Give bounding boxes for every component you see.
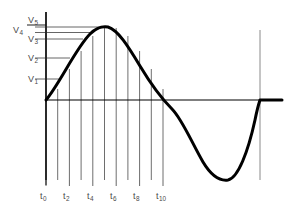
time-label-t6-sub: 6 xyxy=(113,195,117,202)
time-label-t2-sub: 2 xyxy=(66,195,70,202)
voltage-label-v1-sub: 1 xyxy=(34,78,38,85)
time-label-t8: t8 xyxy=(133,192,139,201)
time-label-t4: t4 xyxy=(87,192,93,201)
time-label-t0-sub: 0 xyxy=(43,195,47,202)
voltage-label-v4: V4 xyxy=(13,26,23,35)
voltage-label-v3: V3 xyxy=(28,35,38,44)
figure-canvas xyxy=(0,0,298,214)
voltage-label-v5: V5 xyxy=(28,16,38,25)
voltage-label-v1: V1 xyxy=(28,75,38,84)
voltage-label-v2: V2 xyxy=(28,54,38,63)
tick-mark-group xyxy=(46,180,163,186)
sampling-line-group xyxy=(46,12,163,180)
voltage-label-v2-sub: 2 xyxy=(34,57,38,64)
voltage-label-v5-sub: 5 xyxy=(34,19,38,26)
voltage-label-v4-sub: 4 xyxy=(19,29,23,36)
time-label-t6: t6 xyxy=(110,192,116,201)
time-label-t4-sub: 4 xyxy=(90,195,94,202)
sine-sampling-figure: V5 V4 V3 V2 V1 t0 t2 t4 t6 t8 t10 xyxy=(0,0,298,214)
time-label-t2: t2 xyxy=(63,192,69,201)
time-label-t10: t10 xyxy=(156,192,166,201)
voltage-label-v3-sub: 3 xyxy=(34,38,38,45)
time-label-t0: t0 xyxy=(40,192,46,201)
time-label-t10-sub: 10 xyxy=(159,195,166,202)
time-label-t8-sub: 8 xyxy=(136,195,140,202)
